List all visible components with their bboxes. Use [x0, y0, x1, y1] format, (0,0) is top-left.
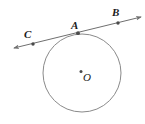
circle-shape — [43, 34, 121, 112]
point-label-c: C — [24, 29, 31, 40]
geometry-figure: C A B O — [0, 0, 145, 124]
point-label-o: O — [83, 72, 91, 83]
point-c-dot — [31, 42, 34, 45]
point-b-dot — [116, 21, 119, 24]
point-label-b: B — [112, 7, 119, 18]
point-label-a: A — [71, 20, 78, 31]
point-a-dot — [76, 31, 80, 35]
